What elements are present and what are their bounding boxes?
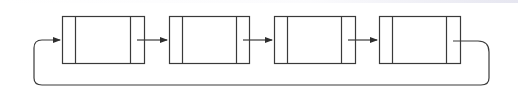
list-node xyxy=(275,17,356,64)
list-node xyxy=(380,17,461,64)
node-box xyxy=(170,17,250,64)
node-box xyxy=(380,17,461,64)
list-node xyxy=(63,17,145,64)
circular-linked-list-diagram xyxy=(0,0,518,95)
node-box xyxy=(63,17,145,64)
list-node xyxy=(170,17,250,64)
node-box xyxy=(275,17,356,64)
